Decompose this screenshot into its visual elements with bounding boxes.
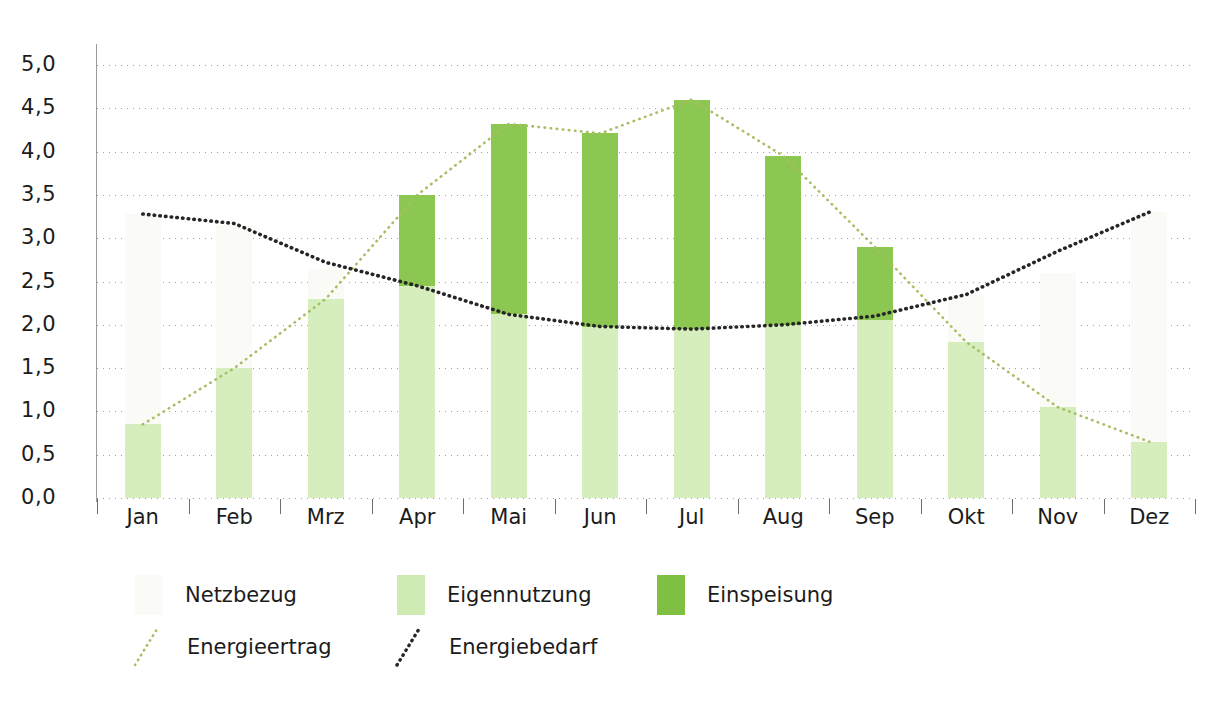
y-axis-tick-label: 0,5 bbox=[0, 444, 56, 465]
legend-label: Energiebedarf bbox=[449, 635, 597, 659]
y-axis-tick-label: 5,0 bbox=[0, 54, 56, 75]
y-axis-tick-label: 3,5 bbox=[0, 184, 56, 205]
legend-item-netzbezug[interactable]: Netzbezug bbox=[135, 575, 297, 615]
plot-area bbox=[97, 65, 1195, 498]
line-series-container bbox=[97, 65, 1195, 498]
x-axis-tick-label-dez: Dez bbox=[1104, 505, 1194, 529]
legend-label: Einspeisung bbox=[707, 583, 833, 607]
energy-balance-chart: 0,00,51,01,52,02,53,03,54,04,55,0 JanFeb… bbox=[0, 0, 1220, 723]
x-axis-tick-mark bbox=[1195, 499, 1196, 514]
legend-swatch-icon bbox=[135, 575, 163, 615]
legend-label: Eigennutzung bbox=[447, 583, 592, 607]
x-axis-tick-label-mai: Mai bbox=[464, 505, 554, 529]
x-axis-tick-label-sep: Sep bbox=[830, 505, 920, 529]
x-axis-tick-label-feb: Feb bbox=[189, 505, 279, 529]
legend-swatch-icon bbox=[657, 575, 685, 615]
x-axis-tick-label-apr: Apr bbox=[372, 505, 462, 529]
legend-dotted-line-icon bbox=[393, 627, 427, 667]
x-axis-tick-label-okt: Okt bbox=[921, 505, 1011, 529]
x-axis-tick-label-jun: Jun bbox=[555, 505, 645, 529]
legend-item-energieertrag[interactable]: Energieertrag bbox=[131, 627, 331, 667]
y-axis-tick-label: 4,0 bbox=[0, 141, 56, 162]
legend-label: Netzbezug bbox=[185, 583, 297, 607]
y-axis-tick-label: 2,0 bbox=[0, 314, 56, 335]
legend-item-energiebedarf[interactable]: Energiebedarf bbox=[393, 627, 597, 667]
legend-dotted-line-icon bbox=[131, 627, 165, 667]
x-axis-tick-label-nov: Nov bbox=[1013, 505, 1103, 529]
x-axis-tick-label-jul: Jul bbox=[647, 505, 737, 529]
x-axis-tick-label-aug: Aug bbox=[738, 505, 828, 529]
line-series-energiebedarf bbox=[143, 212, 1150, 329]
y-axis-tick-label: 1,0 bbox=[0, 400, 56, 421]
y-axis-tick-label: 1,5 bbox=[0, 357, 56, 378]
legend-item-einspeisung[interactable]: Einspeisung bbox=[657, 575, 833, 615]
line-series-energieertrag bbox=[143, 100, 1150, 442]
legend-item-eigennutzung[interactable]: Eigennutzung bbox=[397, 575, 592, 615]
legend-swatch-icon bbox=[397, 575, 425, 615]
chart-legend: NetzbezugEigennutzungEinspeisung Energie… bbox=[97, 575, 1097, 679]
y-axis-tick-label: 3,0 bbox=[0, 227, 56, 248]
y-axis-tick-label: 4,5 bbox=[0, 97, 56, 118]
x-axis-tick-label-mrz: Mrz bbox=[281, 505, 371, 529]
x-axis-tick-label-jan: Jan bbox=[98, 505, 188, 529]
y-axis-tick-label: 2,5 bbox=[0, 271, 56, 292]
legend-row-lines: EnergieertragEnergiebedarf bbox=[97, 627, 1097, 679]
y-axis-tick-label: 0,0 bbox=[0, 487, 56, 508]
legend-row-swatches: NetzbezugEigennutzungEinspeisung bbox=[97, 575, 1097, 627]
legend-label: Energieertrag bbox=[187, 635, 331, 659]
